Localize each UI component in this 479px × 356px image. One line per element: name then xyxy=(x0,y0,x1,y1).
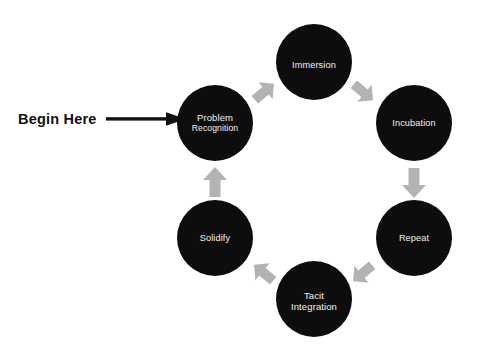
node-solidify-label: Solidify xyxy=(200,233,230,243)
begin-here-arrow-icon xyxy=(106,109,188,129)
node-tacit-integration-line2: Integration xyxy=(291,302,337,313)
node-repeat-label: Repeat xyxy=(399,233,429,243)
node-solidify[interactable]: Solidify xyxy=(177,200,253,276)
node-tacit-integration[interactable]: Tacit Integration xyxy=(276,261,352,337)
node-problem-recognition-line2: Recognition xyxy=(192,124,239,134)
cycle-diagram: Begin Here xyxy=(0,0,479,356)
begin-here-label: Begin Here xyxy=(18,111,97,127)
node-repeat[interactable]: Repeat xyxy=(376,200,452,276)
node-problem-recognition-line1: Problem xyxy=(197,113,233,124)
node-immersion[interactable]: Immersion xyxy=(276,24,352,100)
flow-arrow-tacit-to-solidify xyxy=(248,257,280,289)
begin-here-marker: Begin Here xyxy=(18,105,188,133)
flow-arrow-immersion-to-incubation xyxy=(347,76,379,108)
flow-arrow-solidify-to-problem xyxy=(200,165,230,199)
flow-arrow-problem-to-immersion xyxy=(248,76,280,108)
flow-arrow-repeat-to-tacit xyxy=(347,257,379,289)
node-incubation[interactable]: Incubation xyxy=(376,85,452,161)
flow-arrow-incubation-to-repeat xyxy=(399,166,429,200)
node-problem-recognition[interactable]: Problem Recognition xyxy=(177,85,253,161)
node-immersion-label: Immersion xyxy=(292,60,336,70)
node-incubation-label: Incubation xyxy=(392,118,435,128)
